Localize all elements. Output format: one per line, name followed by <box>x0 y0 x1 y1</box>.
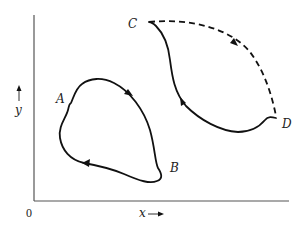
y-axis-label: y <box>14 103 22 117</box>
x-arrowhead-icon <box>158 212 164 217</box>
y-arrowhead-icon <box>17 85 22 91</box>
point-label-c: C <box>128 17 137 31</box>
point-label-d: D <box>281 117 292 131</box>
y-axis-label-group: y <box>14 85 22 117</box>
x-axis-label-group: x <box>139 206 164 220</box>
origin-label: 0 <box>26 206 32 220</box>
loop-ab <box>60 79 162 182</box>
point-label-b: B <box>169 161 179 175</box>
loop-ab-path <box>60 79 162 182</box>
c-to-d-dashed-path <box>149 21 276 116</box>
pv-diagram: 0 x y A B C D <box>0 0 308 228</box>
point-label-a: A <box>55 92 65 106</box>
d-to-c-solid-path <box>149 22 276 132</box>
cycle-cd <box>149 21 276 132</box>
loop-ab-arrow-left-icon <box>82 159 90 167</box>
x-axis-label: x <box>139 206 146 220</box>
